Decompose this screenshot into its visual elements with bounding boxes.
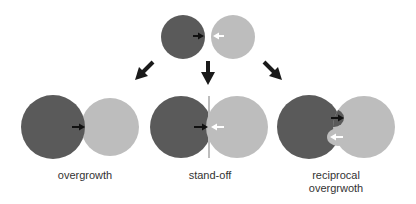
arrow-down-icon	[201, 61, 215, 85]
light-colony	[81, 98, 139, 156]
label-stand-off: stand-off	[155, 169, 265, 182]
label-overgrowth: overgrowth	[30, 169, 140, 182]
initial-colonies	[161, 15, 255, 59]
reciprocal-overgrowth-outcome	[277, 95, 395, 159]
dark-colony	[277, 95, 341, 159]
arrow-left-down-icon	[135, 62, 153, 80]
overgrowth-outcome	[21, 95, 139, 159]
label-reciprocal: reciprocal	[281, 169, 391, 182]
label-overgrwoth: overgrwoth	[281, 182, 391, 195]
stand-off-outcome	[150, 96, 268, 158]
light-colony	[333, 96, 395, 158]
arrow-right-down-icon	[264, 62, 282, 80]
